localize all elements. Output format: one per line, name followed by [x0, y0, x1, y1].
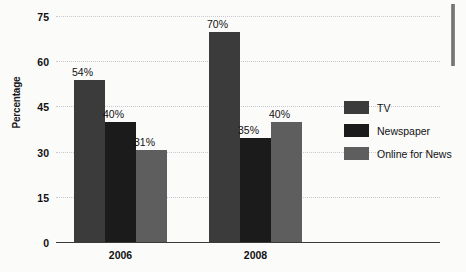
bar-value-label: 54%	[72, 66, 93, 78]
legend-item: TV	[344, 96, 452, 119]
bar-value-label: 31%	[134, 136, 155, 148]
x-axis-category-label: 2008	[209, 249, 302, 261]
bar-value-label: 70%	[207, 18, 228, 30]
bar-value-label: 35%	[238, 124, 259, 136]
x-axis-line	[56, 242, 440, 243]
y-axis-tick-label: 0	[43, 237, 49, 249]
legend-swatch	[344, 147, 369, 160]
y-axis-tick-label: 60	[37, 56, 49, 68]
legend-label: Online for News	[377, 148, 452, 160]
gridline: 75	[56, 16, 440, 17]
x-axis-category-label: 2006	[74, 249, 167, 261]
legend-label: Newspaper	[377, 125, 430, 137]
legend-item: Newspaper	[344, 119, 452, 142]
y-axis-title: Percentage	[11, 63, 22, 143]
y-axis-tick-label: 75	[37, 11, 49, 23]
legend-label: TV	[377, 102, 390, 114]
scrollbar-artifact	[451, 4, 455, 66]
legend: TVNewspaperOnline for News	[344, 96, 452, 165]
legend-item: Online for News	[344, 142, 452, 165]
bar: 54%	[74, 80, 105, 243]
bar-value-label: 40%	[269, 108, 290, 120]
y-axis-tick-label: 30	[37, 147, 49, 159]
bar: 31%	[136, 150, 167, 243]
y-axis-tick-label: 15	[37, 192, 49, 204]
bar: 35%	[240, 138, 271, 243]
legend-swatch	[344, 124, 369, 137]
bar-chart: Percentage 01530456075 54%40%31%70%35%40…	[0, 0, 466, 272]
bar: 40%	[271, 122, 302, 243]
bar-value-label: 40%	[103, 108, 124, 120]
bar: 40%	[105, 122, 136, 243]
gridline: 60	[56, 61, 440, 62]
bar: 70%	[209, 32, 240, 243]
legend-swatch	[344, 101, 369, 114]
y-axis-tick-label: 45	[37, 101, 49, 113]
